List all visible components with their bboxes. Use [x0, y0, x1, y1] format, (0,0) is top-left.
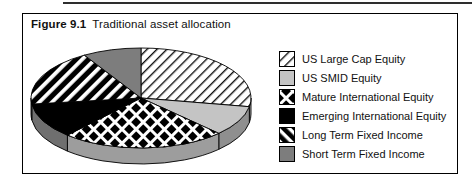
legend-label: Long Term Fixed Income [302, 129, 423, 141]
legend-item: US Large Cap Equity [279, 49, 446, 68]
legend-swatch-rect [280, 89, 295, 104]
legend-swatch-rect [280, 127, 295, 142]
legend-swatch [279, 127, 295, 143]
legend-swatch [279, 146, 295, 162]
legend-item: Long Term Fixed Income [279, 125, 446, 144]
legend-label: Short Term Fixed Income [302, 148, 425, 160]
legend-label: Mature International Equity [302, 91, 433, 103]
pie-slice-0 [141, 48, 251, 107]
legend-label: US SMID Equity [302, 72, 381, 84]
legend-swatch-rect [280, 146, 295, 161]
legend-swatch-rect [280, 51, 295, 66]
figure-panel: Figure 9.1Traditional asset allocation U… [22, 13, 458, 174]
legend-swatch [279, 70, 295, 86]
legend-item: US SMID Equity [279, 68, 446, 87]
legend-item: Short Term Fixed Income [279, 144, 446, 163]
legend-swatch [279, 108, 295, 124]
legend-swatch-rect [280, 108, 295, 123]
legend-swatch [279, 89, 295, 105]
legend-swatch [279, 51, 295, 67]
legend-label: US Large Cap Equity [302, 53, 405, 65]
page-rule [63, 2, 472, 4]
chart-legend: US Large Cap Equity US SMID Equity Matur… [279, 49, 446, 163]
legend-item: Mature International Equity [279, 87, 446, 106]
legend-swatch-rect [280, 70, 295, 85]
legend-label: Emerging International Equity [302, 110, 446, 122]
legend-item: Emerging International Equity [279, 106, 446, 125]
